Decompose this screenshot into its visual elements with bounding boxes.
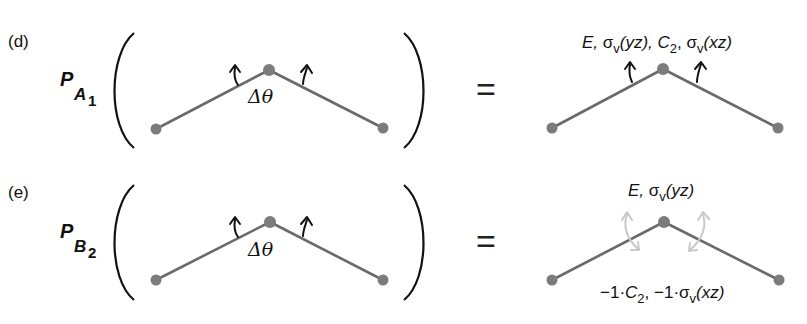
atom-left bbox=[151, 275, 162, 286]
projector-symbol: P bbox=[60, 220, 74, 242]
symmetry-operations-label-positive: E, σv(yz) bbox=[628, 181, 694, 204]
displacement-arrow-left-icon bbox=[625, 62, 635, 82]
bond-right bbox=[664, 222, 779, 280]
left-parenthesis bbox=[115, 185, 135, 300]
right-parenthesis bbox=[404, 185, 424, 300]
atom-left bbox=[547, 123, 558, 134]
atom-left bbox=[151, 124, 162, 135]
displacement-arrow-left-icon bbox=[230, 65, 240, 85]
bond-left bbox=[552, 222, 664, 280]
result-molecule-e bbox=[547, 212, 785, 286]
panel-tag-d: (d) bbox=[8, 32, 29, 51]
left-parenthesis bbox=[115, 33, 135, 148]
result-molecule-d bbox=[547, 62, 784, 134]
panel-tag-e: (e) bbox=[8, 183, 29, 202]
projector-irrep-subscript: 1 bbox=[88, 92, 96, 109]
bond-right bbox=[663, 69, 778, 128]
atom-right bbox=[378, 123, 389, 134]
projector-symbol: P bbox=[60, 68, 74, 90]
right-parenthesis bbox=[404, 33, 424, 148]
symmetry-projection-diagram: (d) P A 1 Δθ bbox=[0, 0, 807, 324]
equals-sign: = bbox=[476, 70, 496, 108]
bond-right bbox=[270, 222, 383, 280]
panel-d: (d) P A 1 Δθ bbox=[8, 32, 784, 148]
input-molecule-d: Δθ bbox=[151, 64, 389, 135]
symmetry-operations-label-negative: −1·C2, −1·σv(xz) bbox=[600, 283, 724, 306]
atom-right bbox=[773, 123, 784, 134]
projector-irrep-subscript: 2 bbox=[88, 244, 96, 261]
panel-e: (e) P B 2 Δθ = bbox=[8, 181, 785, 306]
atom-right bbox=[774, 275, 785, 286]
symmetry-operations-label: E, σv(yz), C2, σv(xz) bbox=[582, 33, 732, 56]
cancelling-arrow-left-icon bbox=[622, 212, 639, 250]
projector-label-b2: P B 2 bbox=[60, 220, 96, 261]
atom-center bbox=[658, 216, 670, 228]
projector-label-a1: P A 1 bbox=[60, 68, 96, 109]
displacement-arrow-right-icon bbox=[301, 65, 312, 84]
cancelling-arrow-right-icon bbox=[689, 212, 709, 251]
displacement-arrow-right-icon bbox=[695, 62, 706, 82]
bond-angle-label: Δθ bbox=[247, 85, 274, 107]
atom-left bbox=[547, 275, 558, 286]
atom-center bbox=[264, 216, 276, 228]
bond-right bbox=[269, 70, 383, 128]
bond-angle-label: Δθ bbox=[247, 238, 274, 260]
projector-irrep: A bbox=[73, 85, 86, 104]
atom-right bbox=[378, 275, 389, 286]
input-molecule-e: Δθ bbox=[151, 216, 389, 286]
displacement-arrow-left-icon bbox=[230, 217, 240, 237]
equals-sign: = bbox=[476, 222, 496, 260]
bond-left bbox=[552, 69, 663, 128]
atom-center bbox=[657, 63, 669, 75]
atom-center bbox=[263, 64, 275, 76]
projector-irrep: B bbox=[74, 237, 86, 256]
displacement-arrow-right-icon bbox=[301, 217, 312, 236]
